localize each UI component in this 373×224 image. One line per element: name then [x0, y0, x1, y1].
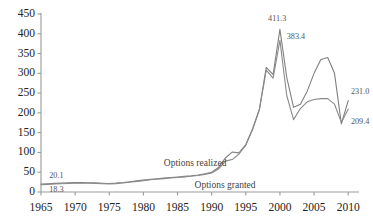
y-tick-label: 150 — [18, 127, 35, 139]
x-tick-label: 1995 — [234, 202, 257, 214]
annotation-start-granted: 18.3 — [49, 186, 63, 194]
x-tick-label: 1975 — [98, 202, 121, 214]
y-tick-label: 200 — [18, 107, 35, 119]
x-tick-label: 2000 — [268, 202, 291, 214]
x-tick-label: 1985 — [166, 202, 189, 214]
y-tick-label: 350 — [18, 48, 35, 60]
annotation-start-realized: 20.1 — [49, 172, 63, 180]
x-tick-label: 1990 — [200, 202, 223, 214]
y-tick-label: 300 — [18, 67, 35, 79]
x-tick-label: 1980 — [132, 202, 155, 214]
options-line-chart: 0501001502002503003504004501965197019751… — [0, 0, 373, 224]
x-tick-label: 1970 — [64, 202, 87, 214]
y-tick-label: 400 — [18, 28, 35, 40]
annotation-peak-realized: 411.3 — [268, 15, 286, 23]
annotation-end-realized: 231.0 — [351, 88, 369, 96]
y-tick-label: 250 — [18, 87, 35, 99]
x-tick-label: 2005 — [303, 202, 326, 214]
label-options-realized: Options realized — [164, 159, 227, 169]
annotation-end-granted: 209.4 — [351, 118, 369, 126]
y-tick-label: 100 — [18, 146, 35, 158]
y-tick-label: 50 — [24, 166, 36, 178]
x-tick-label: 1965 — [30, 202, 53, 214]
y-tick-label: 0 — [29, 186, 35, 198]
label-options-granted: Options granted — [195, 181, 256, 191]
y-tick-label: 450 — [18, 8, 35, 20]
annotation-peak-granted: 383.4 — [287, 33, 305, 41]
x-tick-label: 2010 — [337, 202, 360, 214]
